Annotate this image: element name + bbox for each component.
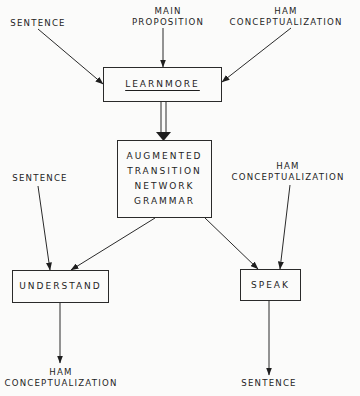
edge-ham-to-speak (280, 185, 290, 269)
output-sentence: SENTENCE (237, 378, 301, 389)
edge-atn-to-understand (71, 218, 155, 270)
input-sentence-top: SENTENCE (6, 18, 70, 29)
input-ham-conceptualization-middle: HAM CONCEPTUALIZATION (224, 161, 352, 182)
edge-atn-to-speak (205, 218, 258, 269)
input-main-proposition: MAIN PROPOSITION (118, 6, 218, 27)
node-learnmore: LEARNMORE (103, 67, 222, 102)
node-speak: SPEAK (240, 269, 301, 301)
edge-sentence-to-learnmore (38, 29, 103, 84)
edge-ham-to-learnmore (222, 28, 291, 82)
input-sentence-middle: SENTENCE (8, 173, 72, 184)
node-augmented-transition-network-grammar: AUGMENTED TRANSITION NETWORK GRAMMAR (117, 140, 212, 218)
edge-sentence-to-understand (38, 186, 50, 270)
output-ham-conceptualization: HAM CONCEPTUALIZATION (0, 367, 125, 388)
node-understand: UNDERSTAND (12, 270, 109, 303)
input-ham-conceptualization-top: HAM CONCEPTUALIZATION (222, 6, 350, 27)
